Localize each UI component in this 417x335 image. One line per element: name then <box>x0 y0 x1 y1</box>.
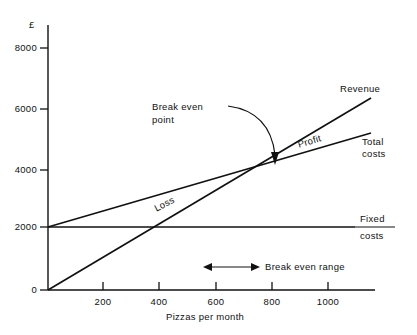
total-costs-label-line1: Total <box>362 136 384 148</box>
revenue-label: Revenue <box>340 83 380 95</box>
chart-canvas <box>0 0 417 335</box>
break-even-point-label-line1: Break even <box>152 101 203 113</box>
x-tick-label-200: 200 <box>83 296 123 308</box>
break-even-range-arrow-head-right <box>251 263 260 271</box>
break-even-range-label: Break even range <box>265 261 345 273</box>
break-even-chart: £ 8000 6000 4000 2000 0 200 400 600 800 … <box>0 0 417 335</box>
x-tick-label-600: 600 <box>196 296 236 308</box>
y-tick-label-6000: 6000 <box>0 103 37 115</box>
break-even-arrow-curve <box>228 106 275 155</box>
y-axis-unit-label: £ <box>29 19 35 31</box>
fixed-costs-label-line2: costs <box>360 230 384 242</box>
y-tick-label-0: 0 <box>0 284 37 296</box>
y-tick-label-4000: 4000 <box>0 164 37 176</box>
x-tick-label-800: 800 <box>252 296 292 308</box>
x-tick-label-400: 400 <box>139 296 179 308</box>
x-tick-label-1000: 1000 <box>308 296 348 308</box>
break-even-point-label-line2: point <box>152 114 174 126</box>
break-even-range-arrow-head-left <box>203 263 212 271</box>
break-even-arrow-head <box>271 152 279 165</box>
x-axis-title: Pizzas per month <box>166 311 244 323</box>
y-tick-label-8000: 8000 <box>0 42 37 54</box>
total-costs-line <box>48 133 371 227</box>
y-tick-label-2000: 2000 <box>0 221 37 233</box>
total-costs-label-line2: costs <box>362 148 386 160</box>
fixed-costs-label-line1: Fixed <box>360 213 385 225</box>
